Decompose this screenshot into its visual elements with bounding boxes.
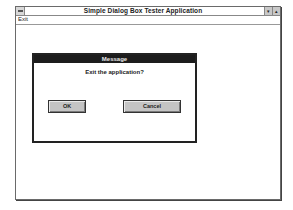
menu-bar: Exit [16,16,280,25]
title-bar[interactable]: Simple Dialog Box Tester Application ▾ ▴ [16,7,280,16]
minimize-button[interactable]: ▾ [264,7,272,15]
cancel-button[interactable]: Cancel [123,100,181,113]
message-dialog: Message Exit the application? OK Cancel [32,53,197,143]
dialog-title[interactable]: Message [34,55,195,63]
dialog-message: Exit the application? [34,68,195,76]
maximize-button[interactable]: ▴ [272,7,280,15]
ok-button[interactable]: OK [48,100,86,113]
window-title: Simple Dialog Box Tester Application [26,6,260,15]
menu-item-exit[interactable]: Exit [18,15,28,24]
system-menu-icon[interactable] [16,7,25,15]
